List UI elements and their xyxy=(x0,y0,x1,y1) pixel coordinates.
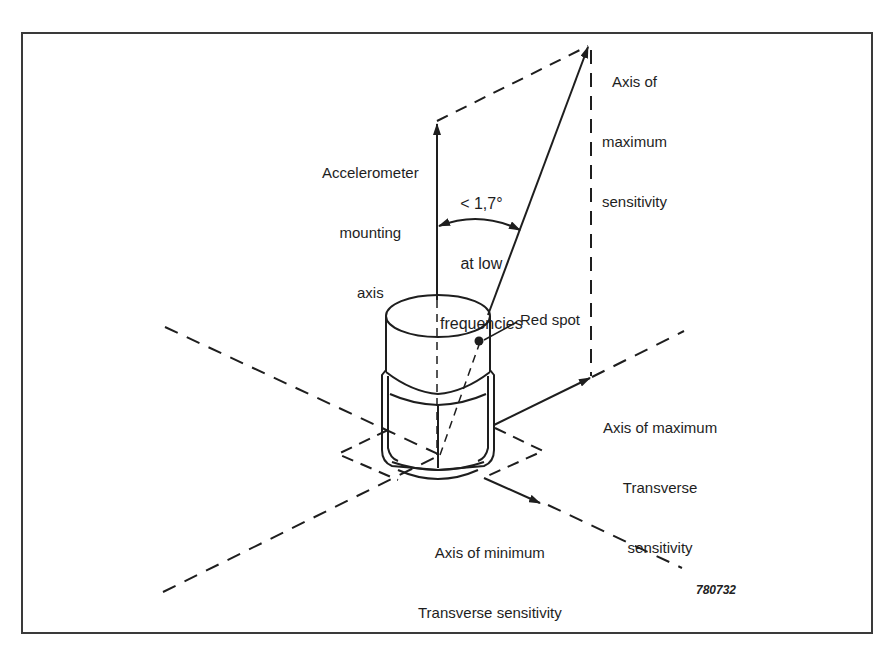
label-line: frequencies xyxy=(440,314,523,334)
label-line: sensitivity xyxy=(602,192,667,212)
label-line: Axis of xyxy=(602,72,667,92)
max-transverse-dashed-line-right xyxy=(592,331,684,377)
label-angle: < 1,7° at low frequencies xyxy=(440,154,523,374)
angle-value: < 1,7° xyxy=(440,194,523,214)
label-mounting-axis: Accelerometer mounting axis xyxy=(322,123,419,343)
figure-reference-number: 780732 xyxy=(696,583,736,597)
label-line: Accelerometer xyxy=(322,163,419,183)
label-red-spot: Red spot xyxy=(520,310,580,330)
hex-face-left xyxy=(390,394,438,405)
hex-face-right xyxy=(438,394,486,405)
label-line: Transverse xyxy=(603,478,717,498)
base-square-dashed-right xyxy=(483,428,543,478)
label-line: Axis of maximum xyxy=(603,418,717,438)
nut-base-ring xyxy=(398,470,478,479)
hex-nut-top-curve xyxy=(386,372,490,394)
label-line: at low xyxy=(440,254,523,274)
label-line: sensitivity xyxy=(603,538,717,558)
label-max-transverse: Axis of maximum Transverse sensitivity xyxy=(603,378,717,598)
min-transverse-axis-arrow xyxy=(484,478,540,503)
label-line: Axis of minimum xyxy=(418,543,562,563)
label-line: Transverse sensitivity xyxy=(418,603,562,623)
label-line: axis xyxy=(322,283,419,303)
label-line: mounting xyxy=(322,223,419,243)
label-line: maximum xyxy=(602,132,667,152)
label-min-transverse: Axis of minimum Transverse sensitivity (… xyxy=(418,503,562,652)
hex-nut-inner-right xyxy=(478,376,488,461)
min-transverse-dashed-line-left xyxy=(165,327,440,455)
diagram-canvas: Axis of maximum sensitivity Acceleromete… xyxy=(0,0,890,652)
max-transverse-axis-arrow xyxy=(494,378,590,425)
label-max-sensitivity-axis: Axis of maximum sensitivity xyxy=(602,32,667,252)
hex-nut-inner-left xyxy=(388,376,398,461)
max-transverse-dashed-line-left xyxy=(163,455,440,592)
